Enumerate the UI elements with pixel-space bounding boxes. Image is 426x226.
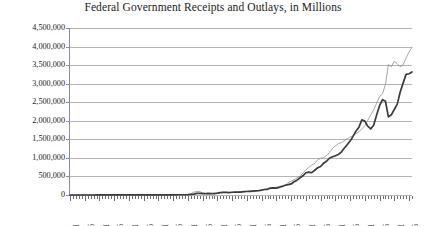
- x-axis-tick-mark: [344, 196, 345, 199]
- x-axis-tick-label: 1996: [353, 224, 361, 226]
- x-axis-tick-mark: [94, 196, 95, 199]
- x-axis-tick-mark: [285, 196, 286, 199]
- x-axis-tick-label: 1901: [73, 224, 81, 226]
- x-axis-tick-mark: [212, 196, 213, 199]
- x-axis-tick-label: 1931: [162, 224, 170, 226]
- x-axis-tick-mark: [147, 196, 148, 199]
- x-axis-tick-mark: [265, 196, 266, 199]
- x-axis-tick-mark: [197, 196, 198, 199]
- x-axis-tick-label: 1966: [265, 224, 273, 226]
- x-axis-tick-mark: [391, 196, 392, 199]
- x-axis-tick-mark: [120, 196, 121, 199]
- x-axis-tick-mark: [253, 196, 254, 199]
- y-axis-tick-label: 3,000,000: [0, 80, 65, 88]
- x-axis-tick-label: 1961: [250, 224, 258, 226]
- x-axis-tick-mark: [332, 196, 333, 199]
- x-axis-tick-mark: [406, 196, 407, 199]
- x-axis-tick-mark: [383, 196, 384, 199]
- x-axis-tick-mark: [244, 196, 245, 199]
- x-axis-tick-mark: [82, 196, 83, 199]
- x-axis-tick-label: 1921: [132, 224, 140, 226]
- x-axis-tick-mark: [223, 196, 224, 199]
- x-axis-tick-mark: [374, 196, 375, 199]
- x-axis-tick-mark: [170, 196, 171, 199]
- x-axis-tick-label: 1971: [280, 224, 288, 226]
- x-axis-tick-mark: [79, 196, 80, 199]
- x-axis-tick-mark: [329, 196, 330, 199]
- x-axis-tick-mark: [91, 196, 92, 199]
- x-axis-tick-mark: [76, 196, 77, 199]
- y-axis-tick-label: 500,000: [0, 172, 65, 180]
- y-axis-tick-label: 0: [0, 191, 65, 199]
- x-axis-tick-mark: [303, 196, 304, 199]
- y-axis-tick-label: 1,500,000: [0, 135, 65, 143]
- x-axis-tick-mark: [377, 196, 378, 199]
- x-axis-tick-mark: [123, 196, 124, 199]
- x-axis-tick-mark: [200, 196, 201, 199]
- x-axis-tick-label: 2006: [383, 224, 391, 226]
- x-axis-tick-mark: [229, 196, 230, 199]
- x-axis-tick-mark: [179, 196, 180, 199]
- x-axis-tick-mark: [315, 196, 316, 199]
- x-axis-tick-mark: [347, 196, 348, 199]
- x-axis-tick-mark: [108, 196, 109, 199]
- x-axis-tick-label: 1941: [191, 224, 199, 226]
- x-axis-tick-mark: [300, 196, 301, 199]
- plot-area: [70, 28, 412, 195]
- x-axis-tick-mark: [397, 196, 398, 199]
- x-axis-tick-mark: [279, 196, 280, 199]
- x-axis-tick-mark: [403, 196, 404, 199]
- x-axis-tick-mark: [250, 196, 251, 199]
- x-axis-tick-mark: [270, 196, 271, 199]
- x-axis-tick-mark: [362, 196, 363, 199]
- x-axis-tick-mark: [327, 196, 328, 199]
- x-axis-tick-mark: [388, 196, 389, 199]
- x-axis-tick-mark: [294, 196, 295, 199]
- x-axis-tick-mark: [353, 196, 354, 199]
- x-axis-tick-mark: [150, 196, 151, 199]
- series-lines: [70, 28, 412, 195]
- x-axis-tick-mark: [105, 196, 106, 199]
- x-axis-tick-label: 1906: [88, 224, 96, 226]
- x-axis-tick-mark: [318, 196, 319, 199]
- x-axis-tick-mark: [288, 196, 289, 199]
- x-axis-tick-mark: [368, 196, 369, 199]
- x-axis-tick-mark: [126, 196, 127, 199]
- x-axis-tick-label: 2001: [368, 224, 376, 226]
- x-axis-tick-mark: [356, 196, 357, 199]
- x-axis-tick-mark: [338, 196, 339, 199]
- x-axis-tick-mark: [132, 196, 133, 199]
- x-axis-tick-mark: [206, 196, 207, 199]
- x-axis-tick-label: 1956: [235, 224, 243, 226]
- x-axis-tick-mark: [282, 196, 283, 199]
- x-axis-tick-mark: [191, 196, 192, 199]
- y-axis-tick-label: 4,500,000: [0, 24, 65, 32]
- x-axis-tick-mark: [385, 196, 386, 199]
- x-axis-tick-mark: [73, 196, 74, 199]
- x-axis-tick-label: 1946: [206, 224, 214, 226]
- x-axis-tick-label: 1911: [103, 224, 111, 226]
- x-axis-tick-mark: [241, 196, 242, 199]
- x-axis-tick-label: 1991: [339, 224, 347, 226]
- y-axis-tick-label: 4,000,000: [0, 43, 65, 51]
- x-axis-tick-mark: [259, 196, 260, 199]
- x-axis-tick-mark: [312, 196, 313, 199]
- x-axis-tick-label: 1926: [147, 224, 155, 226]
- x-axis-tick-mark: [153, 196, 154, 199]
- x-axis-tick-labels: 1901190619111916192119261931193619411946…: [0, 200, 426, 226]
- x-axis-tick-mark: [185, 196, 186, 199]
- x-axis-tick-mark: [97, 196, 98, 199]
- x-axis-tick-mark: [341, 196, 342, 199]
- x-axis-tick-mark: [371, 196, 372, 199]
- x-axis-tick-label: 1916: [117, 224, 125, 226]
- x-axis-tick-mark: [256, 196, 257, 199]
- x-axis-tick-mark: [359, 196, 360, 199]
- x-axis-tick-mark: [324, 196, 325, 199]
- x-axis-tick-mark: [164, 196, 165, 199]
- y-axis-tick-label: 2,000,000: [0, 117, 65, 125]
- y-axis-tick-label: 1,000,000: [0, 154, 65, 162]
- x-axis-tick-mark: [309, 196, 310, 199]
- x-axis-tick-mark: [138, 196, 139, 199]
- chart-screenshot: Federal Government Receipts and Outlays,…: [0, 0, 426, 226]
- x-axis-tick-label: 2011: [398, 224, 406, 226]
